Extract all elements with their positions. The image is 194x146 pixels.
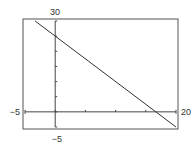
y-min-label: −5 [52, 134, 62, 144]
x-max-label: 20 [181, 107, 191, 117]
graph: 30 −5 −5 20 [0, 0, 194, 146]
window-frame [23, 19, 178, 129]
data-line [35, 21, 176, 127]
x-min-label: −5 [10, 107, 20, 117]
axes [25, 21, 176, 127]
y-max-label: 30 [50, 7, 60, 17]
